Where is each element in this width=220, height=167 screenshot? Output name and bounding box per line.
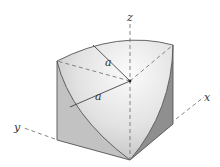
cube-sphere-diagram: z x y a a: [0, 0, 220, 167]
y-axis-label: y: [13, 121, 21, 134]
origin-point: [129, 80, 132, 83]
radius-label-bottom: a: [95, 90, 102, 103]
x-axis-outer: [176, 97, 204, 119]
y-axis-outer: [24, 128, 55, 139]
z-axis-label: z: [126, 11, 133, 24]
x-axis-label: x: [204, 91, 211, 104]
radius-label-top: a: [105, 56, 112, 69]
